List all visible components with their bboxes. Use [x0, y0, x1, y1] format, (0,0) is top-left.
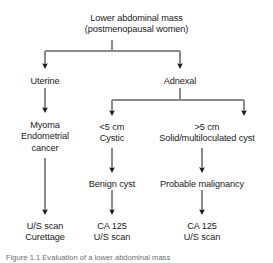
node-adnexal-label: Adnexal — [135, 76, 225, 87]
node-root-line2: (postmenopausal women) — [0, 24, 273, 35]
node-root-line1: Lower abdominal mass — [0, 13, 273, 24]
node-uterine-label: Uterine — [0, 76, 90, 87]
node-malignancy-plan-line1: CA 125 — [162, 221, 242, 232]
node-adnexal-small: <5 cm Cystic — [72, 122, 152, 145]
flowchart-figure: Lower abdominal mass (postmenopausal wom… — [0, 0, 273, 263]
node-root: Lower abdominal mass (postmenopausal wom… — [0, 13, 273, 36]
node-adnexal: Adnexal — [135, 76, 225, 87]
node-adnexal-small-line1: <5 cm — [72, 122, 152, 133]
node-malignancy-plan-line2: U/S scan — [162, 232, 242, 243]
node-adnexal-large: >5 cm Solid/multiloculated cyst — [141, 122, 273, 145]
node-probable-malignancy: Probable malignancy — [145, 179, 259, 190]
node-benign-plan-line2: U/S scan — [72, 232, 152, 243]
node-benign-plan: CA 125 U/S scan — [72, 221, 152, 244]
node-malignancy-plan: CA 125 U/S scan — [162, 221, 242, 244]
node-adnexal-large-line2: Solid/multiloculated cyst — [141, 133, 273, 144]
node-benign-plan-line1: CA 125 — [72, 221, 152, 232]
node-adnexal-large-line1: >5 cm — [141, 122, 273, 133]
node-probable-malignancy-label: Probable malignancy — [145, 179, 259, 190]
figure-caption: Figure 1.1 Evaluation of a lower abdomin… — [6, 253, 170, 262]
node-uterine: Uterine — [0, 76, 90, 87]
node-adnexal-small-line2: Cystic — [72, 133, 152, 144]
